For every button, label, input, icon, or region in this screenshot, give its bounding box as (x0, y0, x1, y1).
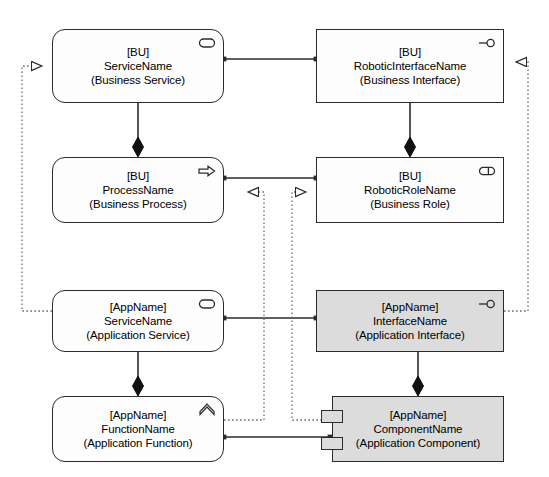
node-shape (316, 157, 504, 223)
component-tab-lower (321, 437, 343, 450)
node-shape (52, 290, 224, 352)
node-shape (52, 396, 224, 462)
composition-application-interface-to-application-component (413, 352, 424, 396)
realization-application-function-to-business-process (224, 192, 264, 420)
realization-application-service-to-business-service (22, 66, 52, 311)
composition-business-interface-to-business-role (405, 103, 416, 157)
node-shape (52, 157, 224, 223)
node-business-process[interactable]: [BU] ProcessName (Business Process) (52, 157, 224, 223)
node-application-function[interactable]: [AppName] FunctionName (Application Func… (52, 396, 224, 462)
node-business-interface[interactable]: [BU] RoboticInterfaceName (Business Inte… (316, 29, 504, 103)
node-application-interface[interactable]: [AppName] InterfaceName (Application Int… (316, 290, 504, 352)
realization-application-interface-to-business-interface (504, 62, 528, 311)
component-tab-upper (321, 410, 343, 423)
node-shape (332, 396, 504, 462)
composition-business-service-to-business-process (133, 103, 144, 157)
node-shape (52, 29, 224, 103)
node-application-service[interactable]: [AppName] ServiceName (Application Servi… (52, 290, 224, 352)
node-shape (316, 290, 504, 352)
node-business-service[interactable]: [BU] ServiceName (Business Service) (52, 29, 224, 103)
composition-application-service-to-application-function (133, 352, 144, 396)
node-shape (316, 29, 504, 103)
node-application-component[interactable]: [AppName] ComponentName (Application Com… (332, 396, 504, 462)
node-business-role[interactable]: [BU] RoboticRoleName (Business Role) (316, 157, 504, 223)
